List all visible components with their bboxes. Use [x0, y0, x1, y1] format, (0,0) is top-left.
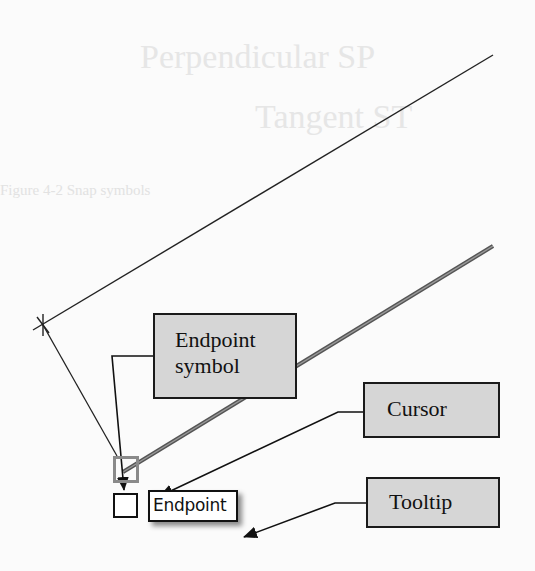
callout-cursor-label: Cursor: [387, 396, 498, 422]
leader-cursor: [160, 412, 363, 496]
construction-line-diagonal: [43, 325, 117, 456]
callout-cursor: Cursor: [363, 382, 500, 438]
callout-tooltip-label: Tooltip: [389, 489, 498, 515]
callout-tooltip: Tooltip: [366, 477, 500, 528]
callout-endpoint-line1: Endpoint: [175, 327, 295, 353]
snap-tooltip-label: Endpoint: [153, 495, 226, 515]
endpoint-snap-marker-icon: [113, 456, 139, 483]
leader-tooltip: [244, 503, 366, 537]
callout-endpoint-symbol: Endpoint symbol: [153, 313, 297, 399]
callout-endpoint-line2: symbol: [175, 353, 295, 379]
pickbox-cursor-icon: [113, 493, 138, 518]
snap-tooltip: Endpoint: [148, 490, 238, 522]
